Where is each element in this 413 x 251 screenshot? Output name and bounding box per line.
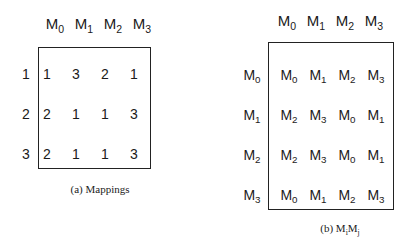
table-cell: 3: [62, 66, 90, 82]
table-cell: M0: [333, 147, 361, 165]
table-cell: M0: [275, 187, 303, 205]
table-cell: 1: [62, 146, 90, 162]
table-cell: M1: [304, 67, 332, 85]
table-cell: 1: [33, 66, 61, 82]
table-cell: 2: [33, 106, 61, 122]
table-cell: M2: [333, 187, 361, 205]
table-cell: M1: [304, 187, 332, 205]
table-cell: 1: [91, 146, 119, 162]
table-cell: M3: [362, 67, 390, 85]
column-header: M0: [41, 15, 69, 35]
column-header: M0: [273, 12, 301, 32]
table-cell: M2: [333, 67, 361, 85]
panel-a-caption: (a) Mappings: [40, 183, 160, 195]
table-cell: 2: [33, 146, 61, 162]
column-header: M3: [360, 12, 388, 32]
table-cell: 3: [120, 146, 148, 162]
table-cell: M0: [275, 67, 303, 85]
table-cell: 3: [120, 106, 148, 122]
table-cell: M3: [304, 107, 332, 125]
table-cell: M3: [362, 187, 390, 205]
table-cell: M2: [275, 107, 303, 125]
column-header: M1: [302, 12, 330, 32]
table-cell: M2: [275, 147, 303, 165]
column-header: M3: [128, 15, 156, 35]
row-label: M0: [242, 67, 262, 85]
table-cell: M1: [362, 147, 390, 165]
column-header: M2: [99, 15, 127, 35]
row-label: M1: [242, 107, 262, 125]
table-cell: M0: [333, 107, 361, 125]
table-cell: 1: [91, 106, 119, 122]
column-header: M1: [70, 15, 98, 35]
table-cell: 1: [120, 66, 148, 82]
row-label: M2: [242, 147, 262, 165]
table-cell: M1: [362, 107, 390, 125]
table-cell: 1: [62, 106, 90, 122]
table-cell: M3: [304, 147, 332, 165]
table-cell: 2: [91, 66, 119, 82]
panel-b-caption-formula: MiMj: [336, 222, 360, 234]
panel-b-caption-prefix: (b): [320, 222, 333, 234]
panel-b-caption: (b) MiMj: [290, 222, 390, 237]
row-label: M3: [242, 187, 262, 205]
column-header: M2: [331, 12, 359, 32]
